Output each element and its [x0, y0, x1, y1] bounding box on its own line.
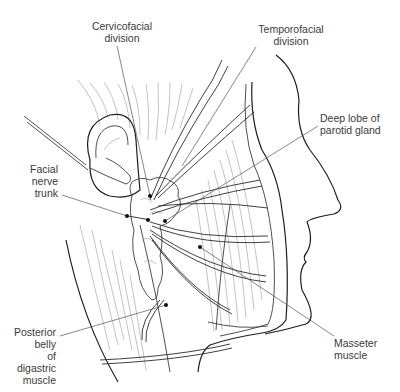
retractor-line — [24, 116, 86, 165]
cervicofacial-branches — [100, 222, 270, 364]
facial-nerve-illustration — [0, 0, 400, 392]
ear — [88, 114, 141, 197]
masseter-anterior-border — [216, 205, 230, 330]
label-facial-nerve-trunk: Facial nerve trunk — [10, 163, 58, 199]
label-posterior-belly-digastric: Posterior belly of digastric muscle — [0, 326, 56, 386]
neck-hatching — [80, 225, 146, 370]
label-deep-lobe-parotid: Deep lobe of parotid gland — [320, 112, 400, 136]
label-temporofacial-division: Temporofacial division — [246, 23, 336, 47]
mandible-outline — [198, 82, 287, 372]
label-cervicofacial-division: Cervicofacial division — [82, 20, 162, 44]
pointer-dots — [125, 194, 202, 307]
neck-outline-back — [66, 240, 118, 382]
leader-lines — [60, 46, 334, 336]
label-masseter-muscle: Masseter muscle — [334, 337, 394, 361]
masseter-lower-border — [208, 322, 268, 327]
temporofacial-branches — [150, 60, 268, 214]
mandible-inner — [220, 84, 274, 336]
face-profile — [265, 55, 341, 334]
parotid-gland — [130, 177, 181, 300]
